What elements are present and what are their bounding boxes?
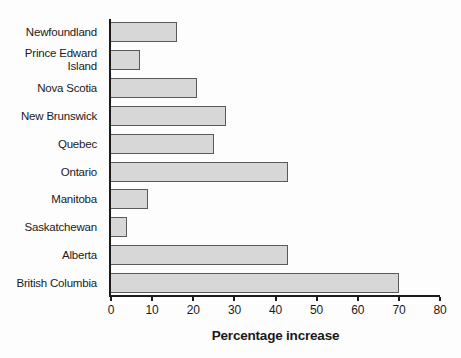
- x-tick-label-10: 10: [146, 303, 159, 317]
- bar-british-columbia: [111, 273, 399, 293]
- x-tick-label-60: 60: [351, 303, 364, 317]
- category-label-manitoba: Manitoba: [0, 189, 97, 209]
- x-tick-mark-70: [398, 297, 400, 301]
- bar-new-brunswick: [111, 106, 226, 126]
- bar-chart: NewfoundlandPrince Edward IslandNova Sco…: [0, 0, 461, 358]
- bar-alberta: [111, 245, 288, 265]
- x-tick-mark-10: [151, 297, 153, 301]
- bar-prince-edward-island: [111, 50, 140, 70]
- x-tick-label-50: 50: [310, 303, 323, 317]
- category-label-alberta: Alberta: [0, 245, 97, 265]
- category-label-quebec: Quebec: [0, 134, 97, 154]
- category-label-new-brunswick: New Brunswick: [0, 106, 97, 126]
- category-labels: NewfoundlandPrince Edward IslandNova Sco…: [0, 20, 104, 295]
- x-tick-mark-60: [357, 297, 359, 301]
- bar-newfoundland: [111, 22, 177, 42]
- category-label-newfoundland: Newfoundland: [0, 22, 97, 42]
- x-tick-mark-0: [110, 297, 112, 301]
- x-tick-label-80: 80: [434, 303, 447, 317]
- x-tick-mark-80: [439, 297, 441, 301]
- x-tick-label-30: 30: [228, 303, 241, 317]
- x-tick-label-70: 70: [392, 303, 405, 317]
- bar-manitoba: [111, 189, 148, 209]
- x-tick-mark-20: [192, 297, 194, 301]
- category-label-prince-edward-island: Prince Edward Island: [0, 50, 97, 70]
- x-tick-mark-40: [275, 297, 277, 301]
- category-label-ontario: Ontario: [0, 162, 97, 182]
- category-label-saskatchewan: Saskatchewan: [0, 217, 97, 237]
- x-tick-label-40: 40: [269, 303, 282, 317]
- category-label-nova-scotia: Nova Scotia: [0, 78, 97, 98]
- category-label-british-columbia: British Columbia: [0, 273, 97, 293]
- bar-ontario: [111, 162, 288, 182]
- x-tick-mark-50: [316, 297, 318, 301]
- bar-nova-scotia: [111, 78, 197, 98]
- x-tick-label-0: 0: [108, 303, 114, 317]
- plot-area: 01020304050607080: [111, 20, 440, 295]
- x-tick-mark-30: [233, 297, 235, 301]
- x-tick-label-20: 20: [187, 303, 200, 317]
- x-axis-title: Percentage increase: [111, 328, 440, 343]
- bar-saskatchewan: [111, 217, 127, 237]
- bar-quebec: [111, 134, 214, 154]
